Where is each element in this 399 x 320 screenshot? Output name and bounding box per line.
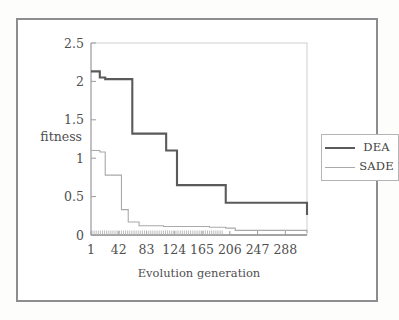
legend-label-dea: DEA: [355, 142, 398, 154]
axis-labels-layer: 00.511.522.514283124165206247288fitnessE…: [40, 36, 297, 281]
legend-swatch-sade: [325, 167, 355, 168]
y-tick-label: 0.5: [64, 189, 84, 204]
legend-item-sade: SADE: [322, 157, 398, 177]
plot-frame: [91, 43, 307, 235]
legend-swatch-dea: [325, 147, 355, 149]
y-tick-label: 1: [76, 151, 84, 166]
series-line-dea: [91, 71, 307, 215]
x-tick-label: 206: [218, 242, 242, 257]
y-tick-label: 0: [76, 228, 84, 243]
x-tick-label: 124: [162, 242, 186, 257]
x-tick-label: 288: [273, 242, 297, 257]
y-tick-label: 1.5: [64, 112, 84, 127]
figure-frame: 00.511.522.514283124165206247288fitnessE…: [16, 18, 378, 302]
legend-label-sade: SADE: [355, 161, 398, 173]
x-tick-label: 1: [87, 242, 95, 257]
tick-marks-layer: [91, 43, 285, 235]
data-series-layer: [91, 71, 307, 232]
y-tick-label: 2.5: [64, 36, 84, 51]
legend: DEA SADE: [321, 134, 399, 181]
x-tick-label: 247: [246, 242, 270, 257]
axes-layer: [91, 43, 307, 235]
x-tick-label: 42: [111, 242, 127, 257]
series-line-sade: [91, 151, 307, 233]
y-tick-label: 2: [76, 74, 84, 89]
legend-item-dea: DEA: [322, 138, 398, 158]
x-axis-title: Evolution generation: [138, 266, 261, 280]
x-tick-label: 83: [139, 242, 155, 257]
y-axis-title: fitness: [40, 129, 82, 144]
x-tick-label: 165: [190, 242, 214, 257]
